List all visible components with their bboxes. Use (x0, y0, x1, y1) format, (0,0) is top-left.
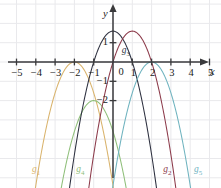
curve-label-g5: g5 (194, 165, 202, 177)
curve-label-index-g1: 1 (37, 169, 41, 177)
curve-label-g3: g3 (122, 46, 130, 58)
curve-label-index-g3: 3 (126, 50, 130, 58)
x-tick-label-6: 2 (150, 68, 155, 79)
x-tick-label-8: 4 (189, 68, 194, 79)
origin-label: 0 (119, 67, 124, 78)
axes (8, 4, 209, 178)
x-tick-label-1: −4 (31, 68, 42, 79)
x-tick-label-2: −3 (50, 68, 61, 79)
x-tick-label-7: 3 (169, 68, 174, 79)
parabola-family-figure: −5−4−3−2−1123451−1−20xyg1g4g3g2g5 (0, 0, 221, 188)
x-tick-label-0: −5 (11, 68, 22, 79)
grid-lines (0, 0, 221, 188)
curve-label-index-g2: 2 (168, 169, 172, 177)
x-axis-label: x (210, 67, 215, 78)
x-tick-label-3: −2 (69, 68, 80, 79)
curve-label-g4: g4 (76, 165, 84, 177)
y-tick-label-1: −1 (97, 76, 108, 87)
x-tick-label-5: 1 (131, 68, 136, 79)
y-axis-arrow (109, 4, 116, 12)
x-axis-arrow (200, 58, 209, 65)
y-tick-label-0: 1 (103, 37, 108, 48)
curve-label-index-g5: 5 (199, 169, 203, 177)
chart-canvas (0, 0, 221, 188)
curve-label-g2: g2 (163, 165, 171, 177)
curve-label-g1: g1 (32, 165, 40, 177)
curve-label-index-g4: 4 (81, 169, 85, 177)
y-axis-label: y (103, 9, 108, 20)
y-tick-label-2: −2 (97, 95, 108, 106)
